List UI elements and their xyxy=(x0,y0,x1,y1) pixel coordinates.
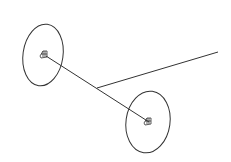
handle-line xyxy=(97,52,218,88)
axle-wheel-diagram xyxy=(0,0,231,162)
axle-line xyxy=(46,56,149,122)
right-wheel xyxy=(122,88,174,156)
left-hub-icon xyxy=(40,51,47,58)
